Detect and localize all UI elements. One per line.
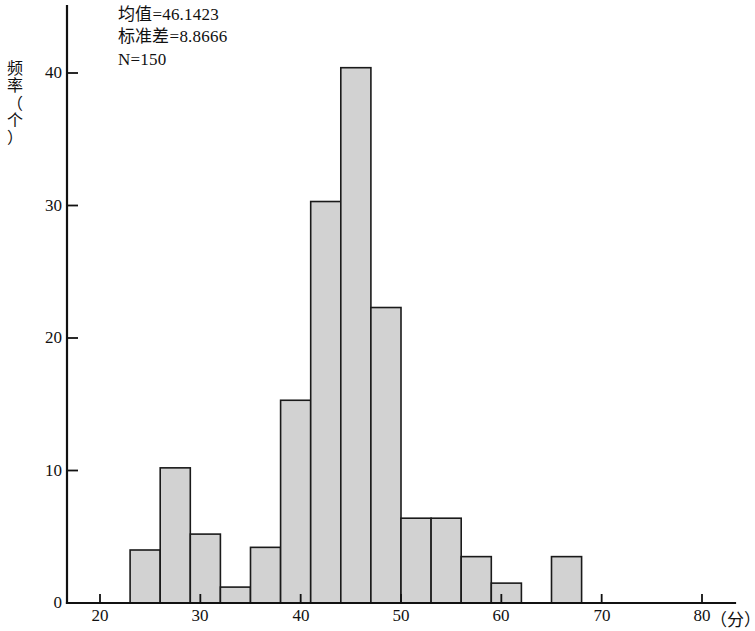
histogram-bar <box>160 468 190 603</box>
histogram-bar <box>461 557 491 603</box>
histogram-bar <box>341 68 371 603</box>
histogram-bar <box>491 583 521 603</box>
histogram-bar <box>251 547 281 603</box>
histogram-bar <box>552 557 582 603</box>
histogram-bar <box>220 587 250 603</box>
histogram-bar <box>431 518 461 603</box>
histogram-bar <box>371 308 401 603</box>
histogram-bar <box>311 202 341 603</box>
histogram-bar <box>281 400 311 603</box>
histogram-bar <box>401 518 431 603</box>
histogram-bar <box>130 550 160 603</box>
bars-group <box>130 68 581 603</box>
histogram-bar <box>190 534 220 603</box>
